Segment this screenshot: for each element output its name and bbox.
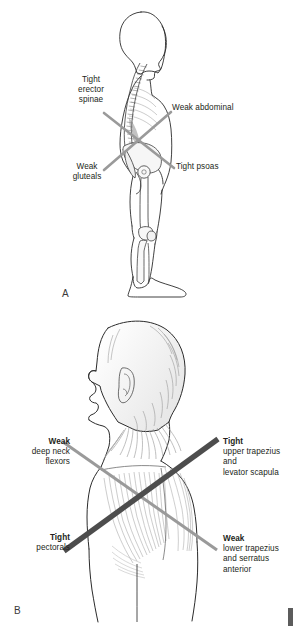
label-weak-abdominal: Weak abdominal xyxy=(172,103,280,113)
label-line: anterior xyxy=(223,565,293,575)
label-heading: Weak xyxy=(8,437,70,447)
head-outline xyxy=(89,321,185,431)
trapezius-upper-border xyxy=(101,466,166,470)
page-edge-mark xyxy=(288,608,293,626)
label-line: flexors xyxy=(8,457,70,467)
fibula xyxy=(148,243,149,284)
thigh-front-contour xyxy=(157,190,162,232)
panel-a: Tight erector spinae Weak abdominal Weak… xyxy=(0,0,293,310)
label-tight-psoas: Tight psoas xyxy=(176,162,256,172)
label-line: pectorals xyxy=(8,543,70,553)
femur-group xyxy=(138,166,153,240)
patella xyxy=(147,231,156,241)
torso-left-contour xyxy=(89,549,98,622)
label-line: and serratus xyxy=(223,554,293,564)
label-heading: Weak xyxy=(223,534,293,544)
shin-contour xyxy=(149,244,155,282)
label-line: Tight xyxy=(62,75,120,85)
label-tight-upper-trapezius: Tight upper trapezius and levator scapul… xyxy=(223,437,293,478)
femoral-head xyxy=(138,166,150,178)
shoulder-left-contour xyxy=(87,467,101,549)
panel-a-illustration xyxy=(0,0,293,310)
panel-letter-a: A xyxy=(62,288,69,299)
label-line: Tight psoas xyxy=(176,162,256,172)
thigh-back-contour xyxy=(130,176,133,226)
label-line: gluteals xyxy=(60,172,114,182)
label-weak-gluteals: Weak gluteals xyxy=(60,162,114,182)
torso-right-contour xyxy=(192,542,198,621)
label-heading: Tight xyxy=(8,533,70,543)
label-tight-pectorals: Tight pectorals xyxy=(8,533,70,553)
label-line: spinae xyxy=(62,95,120,105)
upper-crossed-lines-group xyxy=(63,439,218,551)
label-tight-erector-spinae: Tight erector spinae xyxy=(62,75,120,106)
calf-contour xyxy=(131,238,134,277)
label-line: erector xyxy=(62,85,120,95)
label-line: lower trapezius xyxy=(223,544,293,554)
label-line: levator scapula xyxy=(223,468,293,478)
tibia xyxy=(137,240,147,284)
jaw-neck-contour xyxy=(89,420,110,467)
label-line: and xyxy=(223,457,293,467)
label-line: deep neck xyxy=(8,447,70,457)
label-line: Weak xyxy=(60,162,114,172)
label-weak-deep-neck-flexors: Weak deep neck flexors xyxy=(8,437,70,468)
label-line: upper trapezius xyxy=(223,447,293,457)
label-line: Weak abdominal xyxy=(172,103,280,113)
figure-root: Tight erector spinae Weak abdominal Weak… xyxy=(0,0,293,629)
label-heading: Tight xyxy=(223,437,293,447)
label-weak-lower-trapezius: Weak lower trapezius and serratus anteri… xyxy=(223,534,293,575)
panel-letter-b: B xyxy=(14,605,21,616)
